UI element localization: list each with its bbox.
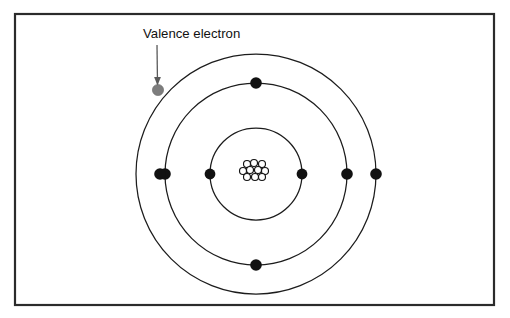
- bohr-model-figure: Valence electron: [0, 0, 510, 318]
- electron-middle-bottom: [250, 259, 262, 271]
- electron-outer-left: [154, 168, 166, 180]
- electron-inner-right: [297, 169, 308, 180]
- nucleon-2: [251, 160, 258, 167]
- electron-inner-left: [205, 169, 216, 180]
- annotations-group: Valence electron: [143, 26, 240, 85]
- valence-electron: [152, 84, 163, 95]
- nucleon-9: [252, 174, 259, 181]
- nucleon-8: [244, 174, 251, 181]
- electron-outer-right: [370, 168, 382, 180]
- pointer-arrowhead-valence-electron-label: [154, 77, 161, 86]
- nucleon-5: [247, 167, 254, 174]
- atom-diagram-canvas: Valence electron: [0, 0, 510, 318]
- nucleon-6: [255, 167, 262, 174]
- electron-middle-top: [250, 77, 262, 89]
- valence-electron-label: Valence electron: [143, 26, 240, 41]
- nucleus-cluster: [240, 160, 269, 181]
- nucleon-10: [259, 174, 266, 181]
- electron-middle-right: [341, 168, 353, 180]
